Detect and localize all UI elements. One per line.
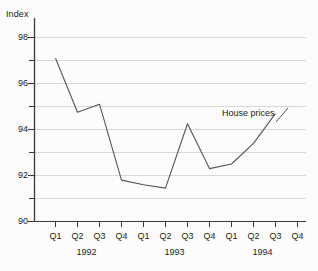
x-tick-label-9: Q2	[244, 231, 264, 241]
x-tick-label-10: Q3	[266, 231, 286, 241]
x-tick-label-7: Q4	[200, 231, 220, 241]
x-group-label-1993: 1993	[155, 247, 195, 257]
x-group-label-1994: 1994	[243, 247, 283, 257]
y-tick-label-90: 90	[6, 216, 28, 226]
x-tick-label-5: Q2	[156, 231, 176, 241]
y-tick-label-98: 98	[6, 32, 28, 42]
x-tick-label-0: Q1	[46, 231, 66, 241]
annotation-leader-line	[276, 108, 288, 122]
line-chart: Index	[0, 0, 318, 271]
series-line-house-prices	[56, 58, 276, 188]
x-tick-label-1: Q2	[68, 231, 88, 241]
y-tick-label-94: 94	[6, 124, 28, 134]
x-tick-label-11: Q4	[288, 231, 308, 241]
x-tick-label-8: Q1	[222, 231, 242, 241]
x-tick-label-4: Q1	[134, 231, 154, 241]
y-tick-label-96: 96	[6, 78, 28, 88]
y-axis-major-ticks	[28, 38, 35, 222]
x-tick-label-6: Q3	[178, 231, 198, 241]
x-tick-label-2: Q3	[90, 231, 110, 241]
x-tick-label-3: Q4	[112, 231, 132, 241]
x-group-label-1992: 1992	[67, 247, 107, 257]
x-axis-ticks	[56, 222, 298, 228]
y-tick-label-92: 92	[6, 170, 28, 180]
series-annotation-label: House prices	[222, 108, 275, 118]
